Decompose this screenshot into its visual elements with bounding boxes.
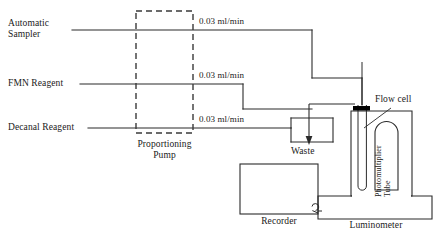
label-photomultiplier-line2: Tube [383,180,392,197]
label-automatic-sampler: Automatic Sampler [8,18,49,40]
proportioning-pump-line1: Proportioning [122,139,207,150]
label-flow-cell: Flow cell [375,94,412,105]
luminometer-base [318,196,432,219]
automatic-sampler-line2: Sampler [8,29,49,40]
proportioning-pump-box [136,11,193,133]
flow-cell-tube [358,105,366,190]
signal-cable-loop-tail [312,211,318,213]
label-decanal-reagent: Decanal Reagent [8,122,74,133]
flow-rate-fmn: 0.03 ml/min [199,70,244,81]
label-waste: Waste [291,146,314,157]
recorder-box [240,164,318,214]
flow-injection-diagram: Automatic Sampler FMN Reagent Decanal Re… [0,0,436,233]
flow-cell-stopper [353,106,370,111]
label-proportioning-pump: Proportioning Pump [122,139,207,161]
automatic-sampler-line1: Automatic [8,18,49,29]
waste-arrowhead [306,136,313,145]
flow-rate-decanal: 0.03 ml/min [199,114,244,125]
proportioning-pump-line2: Pump [122,150,207,161]
label-luminometer: Luminometer [330,220,422,231]
label-recorder: Recorder [240,216,318,227]
flow-rate-sampler: 0.03 ml/min [199,16,244,27]
label-photomultiplier-line1: Photomultiplier [374,145,383,197]
label-fmn-reagent: FMN Reagent [8,78,63,89]
